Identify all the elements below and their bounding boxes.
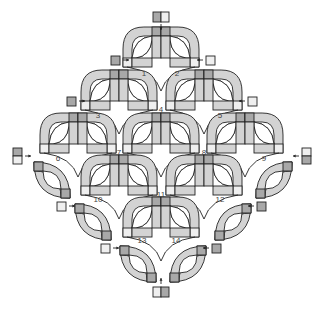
step-label: 12 xyxy=(216,195,225,204)
step-label: 5 xyxy=(218,111,223,120)
step-label: 4 xyxy=(159,105,164,114)
loose-square-piece xyxy=(153,287,169,297)
loose-square-piece xyxy=(206,56,215,65)
single-arc-unit xyxy=(75,204,111,240)
single-arc-unit xyxy=(120,246,156,282)
step-label: 13 xyxy=(138,236,147,245)
loose-square-piece xyxy=(257,202,266,211)
step-label: 3 xyxy=(96,111,101,120)
step-label: 2 xyxy=(175,69,180,78)
step-label: 11 xyxy=(157,190,166,199)
step-label: 8 xyxy=(202,148,207,157)
single-arc-unit xyxy=(170,246,206,282)
loose-square-piece xyxy=(248,97,257,106)
step-label: 1 xyxy=(142,69,147,78)
single-arc-unit xyxy=(215,204,251,240)
single-arc-unit xyxy=(256,162,292,198)
arrow-icon xyxy=(160,278,163,284)
diagram-canvas: 1234567891011121314 xyxy=(0,0,323,309)
loose-square-piece xyxy=(67,97,76,106)
step-label: 6 xyxy=(56,154,61,163)
arrow-icon xyxy=(25,155,31,158)
step-label: 7 xyxy=(117,148,122,157)
arrow-icon xyxy=(113,247,119,250)
loose-square-piece xyxy=(111,56,120,65)
arrow-icon xyxy=(69,205,75,208)
loose-square-piece xyxy=(101,244,110,253)
step-label: 9 xyxy=(262,154,267,163)
loose-square-piece xyxy=(153,12,169,22)
single-arc-unit xyxy=(34,162,70,198)
quilt-assembly-diagram: 1234567891011121314 xyxy=(0,0,323,309)
loose-square-piece xyxy=(57,202,66,211)
step-label: 10 xyxy=(94,195,103,204)
loose-square-piece xyxy=(302,148,311,164)
loose-square-piece xyxy=(212,244,221,253)
step-label: 14 xyxy=(172,236,181,245)
loose-square-piece xyxy=(13,148,22,164)
arrow-icon xyxy=(293,155,299,158)
